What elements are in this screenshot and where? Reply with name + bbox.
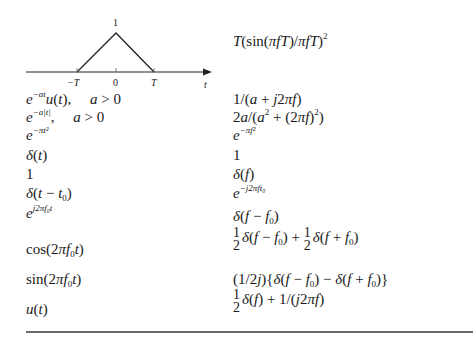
transform-row-2: 2a/(a2 + (2πf)2) [233, 108, 324, 126]
signal-one: 1 [26, 166, 34, 182]
signal-row-4: δ(t) [26, 146, 47, 164]
signal-row-3: e−πt² [26, 126, 48, 144]
signal-row-2: e−a|t|, a > 0 [26, 108, 104, 126]
fraction-half: 12 [233, 288, 240, 314]
fraction-half: 12 [233, 226, 240, 252]
transform-row-4: 1 [233, 146, 241, 164]
transform-row-1: 1/(a + j2πf) [233, 90, 302, 108]
transform-row-10: 12δ(f) + 1/(j2πf) [233, 288, 324, 314]
transform-row-8: 12δ(f − f0) + 12δ(f + f0) [233, 226, 359, 252]
signal-row-5: 1 [26, 165, 34, 183]
signal-row-7: ej2πf₀t [26, 204, 52, 222]
triangle-plot-graphic [0, 0, 220, 95]
peak-label: 1 [113, 17, 118, 28]
signal-row-9: sin(2πf0t) [26, 270, 81, 288]
signal-row-10: u(t) [26, 300, 48, 318]
transform-row-5: δ(f) [233, 165, 254, 183]
tick-label-zero: 0 [113, 77, 118, 88]
signal-row-1: e−atu(t), a > 0 [26, 90, 121, 108]
signal-row-8: cos(2πf0t) [26, 240, 84, 258]
table-bottom-rule [26, 331, 473, 333]
tick-label-t: T [151, 77, 157, 88]
triangle-pulse-plot: 1 −T 0 T t [0, 0, 220, 95]
transform-row-7: δ(f − f0) [233, 207, 279, 225]
axis-label-t: t [204, 79, 207, 90]
transform-row-6: e−j2πft₀ [233, 184, 265, 202]
transform-row-3: e−πf² [233, 126, 255, 144]
fraction-half: 12 [304, 226, 311, 252]
triangle-transform: T(sin(πfT)/πfT)2 [233, 32, 328, 50]
signal-row-6: δ(t − t0) [26, 184, 72, 202]
transform-row-9: (1/2j){δ(f − f0) − δ(f + f0)} [233, 270, 388, 288]
transform-one: 1 [233, 147, 241, 163]
tick-label-neg-t: −T [67, 77, 79, 88]
